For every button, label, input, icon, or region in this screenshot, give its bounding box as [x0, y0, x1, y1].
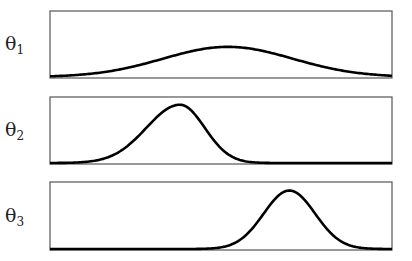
density-curve	[50, 191, 392, 249]
density-curve	[50, 105, 392, 163]
panel-theta1	[50, 11, 392, 78]
panel-theta2	[50, 97, 392, 164]
panel-theta3	[50, 182, 392, 250]
density-curve	[50, 47, 392, 76]
panel-frame	[50, 11, 392, 78]
panel-frame	[50, 97, 392, 164]
density-plots	[0, 0, 412, 261]
